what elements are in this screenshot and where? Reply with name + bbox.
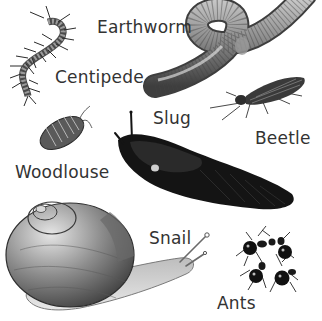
centipede-illustration xyxy=(10,6,76,106)
snail-illustration xyxy=(6,202,209,310)
beetle-illustration xyxy=(210,77,305,120)
label-slug: Slug xyxy=(153,110,191,127)
label-snail: Snail xyxy=(149,230,191,247)
label-earthworm: Earthworm xyxy=(97,19,192,36)
slug-illustration xyxy=(115,110,294,209)
woodlouse-illustration xyxy=(35,106,92,156)
label-beetle: Beetle xyxy=(255,130,311,147)
minibeast-diagram: Earthworm Centipede Slug Beetle Woodlous… xyxy=(0,0,322,321)
label-centipede: Centipede xyxy=(55,69,144,86)
illustrations xyxy=(0,0,322,321)
ants-illustration xyxy=(236,226,298,292)
earthworm-illustration xyxy=(155,0,305,86)
label-woodlouse: Woodlouse xyxy=(15,164,109,181)
label-ants: Ants xyxy=(217,295,256,312)
